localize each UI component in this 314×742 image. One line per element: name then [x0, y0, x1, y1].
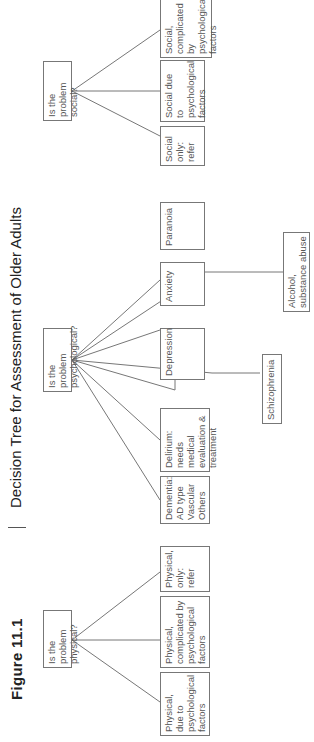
question-physical-line1: Is the problem [46, 614, 68, 664]
figure-label: Figure 11.1 [8, 618, 25, 700]
leaf-dementia: Dementia: AD type Vascular Others [160, 476, 210, 524]
leaf-line: complicated by [174, 0, 196, 54]
leaf-line: treatment [207, 412, 218, 468]
question-psychological-line2: psychological? [68, 332, 79, 388]
leaf-line: Social due to [163, 64, 185, 118]
leaf-line: psychological [185, 64, 196, 118]
leaf-line: due to [174, 676, 185, 732]
leaf-line: AD type [174, 480, 185, 520]
leaf-line: Physical, [163, 550, 174, 588]
leaf-line: Depression [163, 332, 174, 376]
leaf-physical-only-refer: Physical, only: refer [160, 546, 210, 592]
leaf-line: Alcohol, [286, 236, 297, 308]
leaf-social-only-refer: Social only: refer [160, 126, 205, 166]
leaf-line: psychological [196, 0, 207, 54]
question-physical: Is the problem physical? [43, 610, 72, 668]
leaf-line: substance abuse [297, 236, 308, 308]
leaf-line: Physical, [163, 600, 174, 664]
question-social-line1: Is the problem [46, 65, 68, 117]
decision-tree-figure: Figure 11.1 Decision Tree for Assessment… [0, 0, 314, 742]
leaf-depression: Depression [160, 328, 205, 380]
question-social: Is the problem social? [43, 61, 72, 121]
leaf-line: Physical, [163, 676, 174, 732]
question-physical-line2: physical? [68, 614, 79, 664]
leaf-line: Social, [163, 0, 174, 54]
leaf-line: Dementia: [163, 480, 174, 520]
leaf-line: Delirium: [163, 412, 174, 468]
leaf-line: Anxiety [163, 266, 174, 302]
leaf-line: Schizophrenia [265, 358, 276, 420]
figure-title: Decision Tree for Assessment of Older Ad… [7, 207, 24, 508]
leaf-schizophrenia: Schizophrenia [262, 354, 282, 424]
leaf-physical-complicated-by-psych: Physical, complicated by psychological f… [160, 596, 210, 668]
leaf-line: factors [196, 600, 207, 664]
leaf-line: only: [174, 130, 185, 162]
leaf-line: factors [196, 64, 207, 118]
leaf-line: evaluation & [196, 412, 207, 468]
leaf-paranoia: Paranoia [160, 202, 205, 250]
leaf-line: psychological [185, 600, 196, 664]
leaf-anxiety: Anxiety [160, 262, 205, 306]
question-psychological-line1: Is the problem [46, 332, 68, 388]
leaf-line: Paranoia [163, 206, 174, 246]
leaf-social-due-to-psych: Social due to psychological factors [160, 60, 205, 122]
leaf-social-complicated-by-psych: Social, complicated by psychological fac… [160, 0, 212, 58]
leaf-physical-due-to-psych: Physical, due to psychological factors [160, 672, 210, 736]
leaf-line: needs medical [174, 412, 196, 468]
leaf-line: psychological [185, 676, 196, 732]
question-psychological: Is the problem psychological? [43, 328, 72, 392]
leaf-line: Vascular [185, 480, 196, 520]
leaf-line: factors [207, 0, 218, 54]
leaf-line: refer [185, 130, 196, 162]
leaf-line: only: [174, 550, 185, 588]
leaf-line: factors [196, 676, 207, 732]
leaf-line: Others [196, 480, 207, 520]
question-social-line2: social? [68, 65, 79, 117]
leaf-alcohol-substance-abuse: Alcohol, substance abuse [283, 232, 310, 312]
leaf-delirium: Delirium: needs medical evaluation & tre… [160, 408, 210, 472]
title-separator [8, 527, 26, 528]
leaf-line: refer [185, 550, 196, 588]
leaf-line: complicated by [174, 600, 185, 664]
leaf-line: Social [163, 130, 174, 162]
